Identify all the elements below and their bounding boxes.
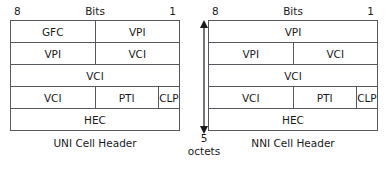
nni-bit-label-right: 1 — [367, 1, 374, 21]
table-row: HEC — [11, 109, 180, 131]
nni-bit-ruler: 8 Bits 1 — [208, 0, 378, 20]
uni-bit-label-right: 1 — [169, 1, 176, 21]
uni-header-table: GFC VPI VPI VCI VCI VCI PTI CLP HEC — [10, 20, 180, 131]
uni-field-vci-row2: VCI — [95, 43, 180, 65]
nni-header-table: VPI VPI VCI VCI VCI PTI CLP HEC — [208, 20, 378, 131]
nni-field-clp: CLP — [356, 87, 377, 109]
uni-bit-ruler: 8 Bits 1 — [10, 0, 180, 20]
uni-field-pti: PTI — [95, 87, 158, 109]
uni-cell-header-panel: 8 Bits 1 GFC VPI VPI VCI VCI VCI PTI — [10, 0, 180, 150]
nni-bit-label-middle: Bits — [208, 1, 378, 21]
table-row: HEC — [209, 109, 378, 131]
nni-field-vci-row2: VCI — [293, 43, 378, 65]
uni-field-gfc: GFC — [11, 21, 96, 43]
atm-cell-header-diagram: 8 Bits 1 GFC VPI VPI VCI VCI VCI PTI — [0, 0, 389, 172]
uni-field-vci-row3: VCI — [11, 65, 180, 87]
table-row: VCI — [11, 65, 180, 87]
nni-field-vpi-row2: VPI — [209, 43, 294, 65]
table-row: VPI VCI — [11, 43, 180, 65]
nni-field-vci-row3: VCI — [209, 65, 378, 87]
nni-cell-header-panel: 8 Bits 1 VPI VPI VCI VCI VCI PTI CLP — [208, 0, 378, 150]
uni-field-vpi-row1: VPI — [95, 21, 180, 43]
table-row: GFC VPI — [11, 21, 180, 43]
uni-field-hec: HEC — [11, 109, 180, 131]
uni-bit-label-middle: Bits — [10, 1, 180, 21]
table-row: VPI — [209, 21, 378, 43]
table-row: VCI PTI CLP — [209, 87, 378, 109]
uni-field-clp: CLP — [158, 87, 179, 109]
nni-caption: NNI Cell Header — [208, 136, 378, 150]
nni-field-vpi-row1: VPI — [209, 21, 378, 43]
table-row: VCI — [209, 65, 378, 87]
nni-field-pti: PTI — [293, 87, 356, 109]
nni-field-vci-row4: VCI — [209, 87, 294, 109]
table-row: VPI VCI — [209, 43, 378, 65]
uni-field-vci-row4: VCI — [11, 87, 96, 109]
uni-field-vpi-row2: VPI — [11, 43, 96, 65]
uni-caption: UNI Cell Header — [10, 136, 180, 150]
nni-field-hec: HEC — [209, 109, 378, 131]
table-row: VCI PTI CLP — [11, 87, 180, 109]
